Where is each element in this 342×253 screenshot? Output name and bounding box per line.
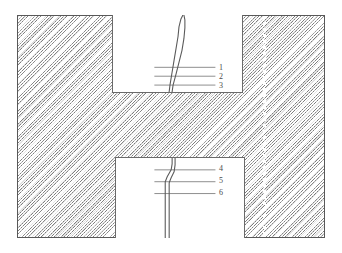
inset-detail-window-top — [112, 15, 243, 93]
marker-label-6: 6 — [219, 189, 223, 197]
inset-bottom-traces — [116, 158, 244, 238]
figure-root: 123456 — [0, 0, 342, 253]
marker-label-1: 1 — [219, 64, 223, 72]
marker-label-5: 5 — [219, 177, 223, 185]
trace-top-b — [172, 15, 185, 92]
dotted-centerline — [263, 16, 266, 237]
marker-label-3: 3 — [219, 82, 223, 90]
inset-detail-window-bottom — [115, 157, 245, 238]
marker-label-2: 2 — [219, 73, 223, 81]
marker-label-4: 4 — [219, 165, 223, 173]
